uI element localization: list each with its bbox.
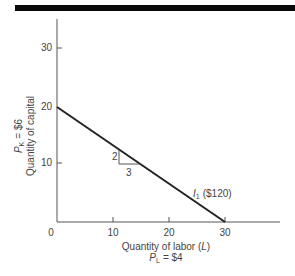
run-label: 3 [126,167,132,178]
x-tick-label-0: 0 [48,227,54,238]
isocost-chart: 30 20 10 0 10 20 30 2 3 I1($120) Quantit… [0,0,295,276]
x-axis-title: Quantity of labor (L) [122,241,210,252]
y-tick-label-20: 20 [41,101,53,112]
y-tick-label-10: 10 [41,157,53,168]
y-tick-label-30: 30 [41,42,53,53]
x-tick-label-30: 30 [219,227,231,238]
isocost-line [57,107,225,222]
x-tick-label-20: 20 [163,227,175,238]
y-price-label: PK= $6 [13,119,25,154]
y-axis-title: Quantity of capital [25,96,36,176]
x-price-label: PL= $4 [149,252,183,264]
isocost-label: I1($120) [193,188,232,200]
rise-label: 2 [112,151,118,162]
x-tick-label-10: 10 [107,227,119,238]
